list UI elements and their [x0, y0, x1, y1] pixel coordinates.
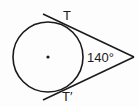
label-tangent-point-t: T	[63, 9, 71, 22]
center-point	[46, 55, 49, 58]
label-arc-measure: 140°	[87, 51, 114, 64]
label-tangent-point-t-prime: T′	[62, 90, 72, 103]
diagram-canvas: T T′ 140°	[0, 0, 138, 107]
